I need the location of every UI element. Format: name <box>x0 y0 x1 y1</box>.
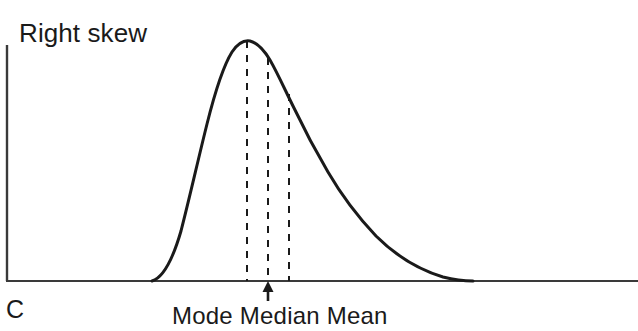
arrow-head <box>263 281 274 292</box>
density-curve <box>152 41 473 281</box>
skew-title: Right skew <box>19 20 147 46</box>
mean-label: Mean <box>327 302 388 329</box>
mode-label: Mode <box>172 302 233 329</box>
measures-label-group: ModeMedianMean <box>172 304 388 328</box>
median-label: Median <box>240 302 320 329</box>
panel-letter: C <box>6 297 24 322</box>
median-pointer-arrow <box>263 281 274 301</box>
distribution-plot <box>0 0 638 331</box>
right-skew-figure: Right skew C ModeMedianMean <box>0 0 638 331</box>
